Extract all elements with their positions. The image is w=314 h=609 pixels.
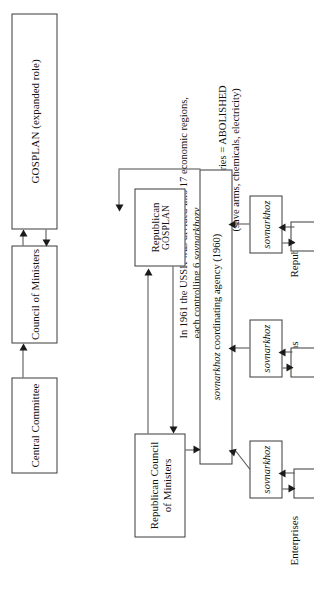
box-sovnarkhoz-1-text: sovnarkhoz	[260, 443, 272, 495]
box-republican-council-text: Republican Council of Ministers	[147, 436, 172, 534]
republican-gosplan-line1: Republican	[148, 191, 160, 263]
box-republican-gosplan-text: Republican GOSPLAN	[148, 191, 171, 263]
box-sovnarkhoz-3-text: sovnarkhoz	[260, 198, 272, 250]
arrowhead-gosplan-to-com	[42, 239, 50, 246]
org-chart-canvas: Republics Regions Enterprises Central Mi…	[0, 0, 314, 609]
box-republican-council-of-ministers[interactable]: Republican Council of Ministers	[134, 433, 185, 537]
republican-council-line2: of Ministers	[160, 436, 172, 534]
box-council-of-ministers-text: Council of Ministers	[28, 248, 40, 340]
connector-cc-to-com	[22, 348, 23, 377]
arrowhead-sovnarkhoz1-to-agency	[227, 446, 236, 456]
arrowhead-enterprise3-to-sovnarkhoz3	[278, 223, 285, 231]
arrowhead-enterprise2-to-sovnarkhoz2	[278, 348, 285, 356]
arrowhead-sovnarkhoz2-to-agency	[228, 344, 235, 352]
box-gosplan-central[interactable]: GOSPLAN (expanded role)	[11, 13, 57, 229]
arrowhead-cc-to-com	[19, 343, 27, 350]
box-sovnarkhoz-coordinating-agency[interactable]: sovnarkhoz coordinating agency (1960)	[199, 169, 232, 464]
arrowhead-sovnarkhoz2-to-enterprise2	[286, 364, 293, 372]
arrowhead-enterprise1-to-sovnarkhoz1	[278, 469, 285, 477]
connector-agency-to-gosplan-vertical	[118, 168, 200, 169]
gosplan-suffix: (expanded role)	[28, 59, 40, 131]
arrowhead-repcom-to-agency	[193, 446, 200, 454]
box-coordinating-agency-text: sovnarkhoz coordinating agency (1960)	[210, 172, 222, 461]
box-sovnarkhoz-3[interactable]: sovnarkhoz	[249, 195, 282, 253]
connector-repgosplan-to-repcom	[172, 266, 173, 427]
arrowhead-repgosplan-to-repcom	[169, 426, 177, 433]
box-central-committee[interactable]: Central Committee	[11, 377, 57, 473]
box-enterprise-2[interactable]	[290, 347, 314, 377]
arrowhead-agency-to-gosplan	[115, 204, 123, 211]
box-republican-gosplan[interactable]: Republican GOSPLAN	[134, 188, 185, 266]
republican-council-line1: Republican Council	[147, 436, 159, 534]
arrowhead-sovnarkhoz1-to-enterprise1	[288, 485, 295, 493]
connector-gosplan-to-com	[45, 229, 46, 240]
tier-label-enterprises: Enterprises	[288, 516, 299, 565]
box-gosplan-central-text: GOSPLAN (expanded role)	[28, 16, 40, 226]
coordinating-agency-italic: sovnarkhoz	[210, 352, 221, 400]
box-sovnarkhoz-2-text: sovnarkhoz	[260, 322, 272, 374]
box-sovnarkhoz-2[interactable]: sovnarkhoz	[249, 319, 282, 377]
connector-agency-to-gosplan-horizontal	[118, 169, 119, 205]
box-central-committee-text: Central Committee	[28, 380, 40, 470]
connector-repcom-to-repgosplan	[147, 274, 148, 433]
gosplan-label: GOSPLAN	[28, 131, 40, 183]
box-sovnarkhoz-1[interactable]: sovnarkhoz	[249, 440, 282, 498]
connector-sovnarkhoz1-to-agency	[234, 449, 250, 469]
republican-gosplan-line2: GOSPLAN	[160, 191, 171, 263]
box-council-of-ministers[interactable]: Council of Ministers	[11, 245, 57, 343]
arrowhead-sovnarkhoz3-to-enterprise3	[288, 239, 295, 247]
arrowhead-com-to-gosplan	[19, 229, 27, 236]
coordinating-agency-rest: coordinating agency (1960)	[210, 233, 221, 352]
arrowhead-sovnarkhoz3-to-agency	[228, 220, 235, 228]
arrowhead-repcom-to-repgosplan	[144, 268, 152, 275]
box-enterprise-1[interactable]	[293, 468, 314, 498]
